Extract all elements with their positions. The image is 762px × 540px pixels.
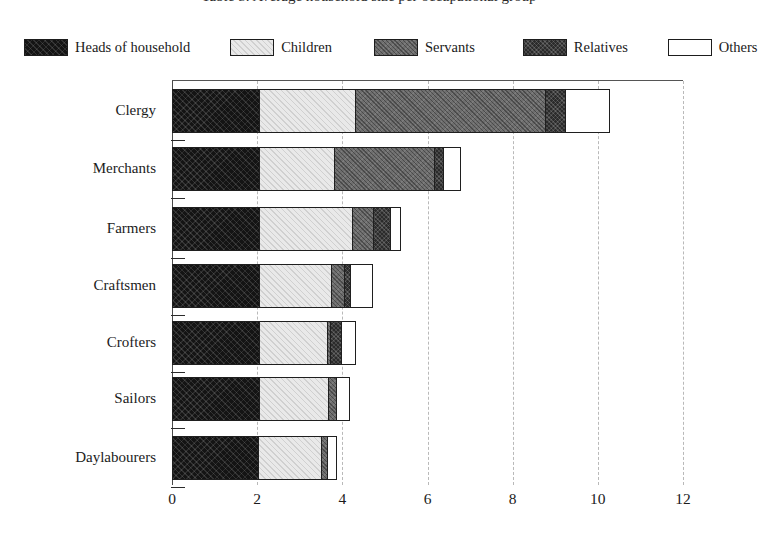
bar-row (172, 89, 610, 133)
bar-series-container (172, 81, 683, 485)
bar-segment (328, 377, 336, 421)
bar-segment (172, 207, 259, 251)
bar-segment (330, 321, 341, 365)
legend-swatch-white-outline (668, 39, 712, 56)
bar-row (172, 264, 373, 308)
bar-segment (341, 321, 355, 365)
y-axis-tick-label: Merchants (93, 160, 156, 177)
bar-segment (373, 207, 390, 251)
legend-item-label: Servants (425, 39, 475, 56)
bar-segment (172, 264, 259, 308)
bar-segment (390, 207, 401, 251)
bar-segment (259, 321, 327, 365)
legend-swatch-black-hatched (24, 39, 68, 56)
category-tick (171, 258, 185, 259)
y-axis-tick-label: Daylabourers (75, 449, 156, 466)
legend-item-label: Relatives (574, 39, 628, 56)
legend: Heads of householdChildrenServantsRelati… (24, 36, 724, 58)
x-axis-tick-label: 12 (675, 490, 691, 508)
x-axis-tick-label: 10 (590, 490, 606, 508)
gridline-12 (683, 81, 685, 485)
x-axis-tick-label: 2 (253, 490, 261, 508)
legend-item-children[interactable]: Children (230, 39, 354, 56)
category-tick (171, 487, 185, 488)
legend-swatch-gray-hatched (374, 39, 418, 56)
page-title: Table 5. Average household size per occu… (0, 0, 738, 4)
bar-row (172, 147, 461, 191)
bar-segment (172, 89, 259, 133)
y-axis-tick-label: Farmers (107, 220, 156, 237)
bar-segment (565, 89, 610, 133)
bar-row (172, 207, 401, 251)
y-axis-tick-label: Clergy (115, 102, 156, 119)
bar-segment (259, 207, 351, 251)
x-axis-tick-label: 0 (168, 490, 176, 508)
bar-segment (334, 147, 434, 191)
y-axis-tick-label: Craftsmen (94, 277, 156, 294)
bar-segment (172, 147, 259, 191)
bar-segment (336, 377, 350, 421)
x-axis-tick-label: 8 (509, 490, 517, 508)
y-axis-tick-label: Crofters (107, 334, 156, 351)
legend-item-heads-of-household[interactable]: Heads of household (24, 39, 212, 56)
bar-segment (259, 89, 355, 133)
category-tick (171, 372, 185, 373)
bar-segment (172, 377, 259, 421)
bar-segment (331, 264, 344, 308)
y-axis-labels: ClergyMerchantsFarmersCraftsmenCroftersS… (0, 80, 166, 484)
plot-area (172, 80, 683, 485)
bar-segment (259, 377, 328, 421)
bar-segment (259, 264, 331, 308)
x-axis-tick-label: 4 (338, 490, 346, 508)
bar-segment (434, 147, 443, 191)
bar-segment (172, 321, 259, 365)
bar-row (172, 436, 337, 480)
category-tick (171, 315, 185, 316)
legend-item-relatives[interactable]: Relatives (523, 39, 650, 56)
bar-segment (443, 147, 460, 191)
bar-row (172, 321, 356, 365)
bar-segment (258, 436, 321, 480)
bar-segment (350, 264, 373, 308)
x-axis-labels: 024681012 (0, 490, 738, 516)
category-tick (171, 140, 185, 141)
y-axis-tick-label: Sailors (114, 390, 156, 407)
bar-segment (545, 89, 565, 133)
x-axis-tick-label: 6 (424, 490, 432, 508)
bar-segment (327, 436, 337, 480)
bar-segment (355, 89, 544, 133)
legend-item-servants[interactable]: Servants (374, 39, 497, 56)
legend-swatch-dark-hatched (523, 39, 567, 56)
bar-segment (172, 436, 258, 480)
legend-item-label: Heads of household (75, 39, 190, 56)
bar-segment (352, 207, 373, 251)
legend-item-label: Others (719, 39, 758, 56)
legend-item-label: Children (281, 39, 332, 56)
legend-swatch-light-hatched (230, 39, 274, 56)
legend-item-others[interactable]: Others (668, 39, 762, 56)
bar-segment (259, 147, 334, 191)
category-tick (171, 198, 185, 199)
bar-row (172, 377, 350, 421)
category-tick (171, 428, 185, 429)
